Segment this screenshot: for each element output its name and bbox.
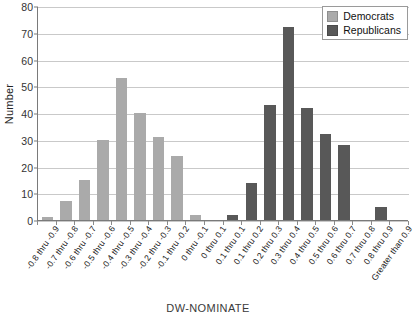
bar — [375, 207, 386, 220]
bar — [134, 113, 145, 220]
bar-slot — [131, 6, 150, 220]
bar-slot — [149, 6, 168, 220]
bar-slot — [75, 6, 94, 220]
y-tick-label: 0 — [27, 215, 33, 227]
bar — [301, 108, 312, 220]
bar — [97, 140, 108, 220]
y-tick-label: 50 — [21, 81, 33, 93]
bar-slot — [279, 6, 298, 220]
bar — [264, 105, 275, 220]
bar-slot — [261, 6, 280, 220]
bar-slot — [168, 6, 187, 220]
bar — [60, 201, 71, 220]
x-axis-title: DW-NOMINATE — [0, 302, 416, 314]
bar-slot — [57, 6, 76, 220]
y-tick-label: 10 — [21, 188, 33, 200]
bar — [227, 215, 238, 220]
bar — [171, 156, 182, 220]
legend-item: Democrats — [327, 10, 401, 22]
bar-slot — [186, 6, 205, 220]
y-tick-label: 20 — [21, 162, 33, 174]
bar — [190, 215, 201, 220]
legend-swatch — [327, 11, 338, 22]
bar-slot — [38, 6, 57, 220]
x-axis-tick-labels: -0.8 thru -0.9-0.7 thru -0.8-0.6 thru -0… — [37, 224, 408, 294]
bar-slot — [94, 6, 113, 220]
bar-slot — [112, 6, 131, 220]
y-axis-title: Number — [3, 74, 15, 134]
legend: DemocratsRepublicans — [322, 6, 408, 40]
y-tick-label: 80 — [21, 1, 33, 13]
y-tick-label: 60 — [21, 55, 33, 67]
legend-label: Democrats — [343, 10, 394, 22]
y-tick-label: 40 — [21, 108, 33, 120]
legend-item: Republicans — [327, 24, 401, 36]
legend-swatch — [327, 25, 338, 36]
bar-slot — [223, 6, 242, 220]
bar-slot — [242, 6, 261, 220]
x-tick-mark — [408, 221, 409, 225]
bar — [338, 145, 349, 220]
bar — [42, 217, 53, 220]
bar — [283, 27, 294, 220]
bar-slot — [205, 6, 224, 220]
bar — [246, 183, 257, 220]
bar-slot — [298, 6, 317, 220]
bar — [116, 78, 127, 220]
histogram-chart: Number 01020304050607080 -0.8 thru -0.9-… — [0, 0, 416, 315]
bar — [153, 137, 164, 220]
y-tick-label: 70 — [21, 28, 33, 40]
y-tick-label: 30 — [21, 135, 33, 147]
bar — [320, 134, 331, 220]
bar — [79, 180, 90, 220]
legend-label: Republicans — [343, 24, 401, 36]
